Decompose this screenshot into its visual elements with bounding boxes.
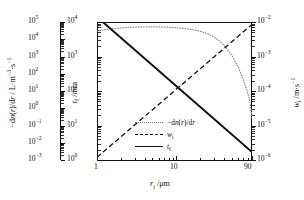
inner-left-tick-label: 101 (67, 121, 77, 129)
legend-item-tf: tf (135, 141, 207, 153)
ral-w: w (292, 102, 301, 107)
outer-left-minor-tick (61, 132, 64, 133)
outer-left-tick-label: 101 (28, 86, 38, 94)
outer-left-minor-tick (61, 69, 64, 70)
right-minor-tick (252, 136, 255, 137)
right-minor-tick (252, 99, 255, 100)
outer-left-minor-tick (61, 57, 64, 58)
ral-sup: −1 (290, 77, 296, 83)
outer-left-minor-tick (61, 144, 64, 145)
outer-left-minor-tick (61, 43, 64, 44)
outer-left-minor-tick (61, 46, 64, 47)
x-tick-label-1: 1 (94, 163, 98, 171)
outer-left-minor-tick (61, 79, 64, 80)
right-minor-tick (252, 24, 255, 25)
outer-left-minor-tick (61, 86, 64, 87)
outer-left-minor-tick (61, 131, 64, 132)
series-dn-dr-dotted (97, 27, 252, 119)
outer-left-axis-label: −dn(r)/dr / L·m−3·s−1 (8, 37, 17, 149)
right-minor-tick (252, 101, 255, 102)
outer-left-minor-tick (61, 113, 64, 114)
outer-left-tick-label: 104 (28, 34, 38, 42)
outer-left-minor-tick (61, 25, 64, 26)
olal-sup1: −3 (6, 70, 12, 76)
outer-left-minor-tick (61, 44, 64, 45)
right-major-tick (252, 160, 256, 161)
right-minor-tick (252, 58, 255, 59)
x-axis-label: ri /μm (150, 179, 170, 188)
right-minor-tick (252, 70, 255, 71)
outer-left-minor-tick (61, 112, 64, 113)
outer-left-minor-tick (61, 138, 64, 139)
right-minor-tick (252, 36, 255, 37)
x-tick-label-10: 10 (170, 163, 178, 171)
ral-units: /m·s (292, 84, 301, 101)
outer-left-minor-tick (61, 75, 64, 76)
legend: −dn(r)/dr wi tf (135, 117, 207, 153)
outer-left-minor-tick (61, 83, 64, 84)
right-tick-label: 10−2 (257, 17, 271, 25)
outer-left-minor-tick (61, 147, 64, 148)
outer-left-minor-tick (61, 135, 64, 136)
outer-left-minor-tick (61, 59, 64, 60)
right-tick-label: 10−3 (257, 52, 271, 60)
right-minor-tick (252, 115, 255, 116)
right-minor-tick (252, 60, 255, 61)
outer-left-minor-tick (61, 94, 64, 95)
right-minor-tick (252, 127, 255, 128)
outer-left-minor-tick (61, 51, 64, 52)
right-minor-tick (252, 94, 255, 95)
right-minor-tick (252, 105, 255, 106)
olal-p0: −d (8, 119, 17, 128)
figure-root: −dn(r)/dr / L·m−3·s−1 105104103102101100… (0, 0, 304, 200)
olal-n: n (8, 115, 17, 119)
outer-left-minor-tick (61, 127, 64, 128)
right-minor-tick (252, 144, 255, 145)
right-minor-tick (252, 30, 255, 31)
outer-left-minor-tick (61, 29, 64, 30)
right-minor-tick (252, 32, 255, 33)
outer-left-tick-label: 100 (28, 103, 38, 111)
outer-left-minor-tick (61, 48, 64, 49)
right-minor-tick (252, 40, 255, 41)
x-axis-spine (97, 160, 252, 161)
outer-left-minor-tick (61, 148, 64, 149)
lg0-p: −d (167, 118, 175, 127)
x-tick-label-90: 90 (244, 163, 252, 171)
right-minor-tick (252, 96, 255, 97)
inner-left-tick-label: 100 (67, 155, 77, 163)
legend-label-tf: tf (167, 143, 171, 150)
outer-left-minor-tick (61, 60, 64, 61)
outer-left-minor-tick (61, 98, 64, 99)
right-tick-label: 10−5 (257, 121, 271, 129)
right-minor-tick (252, 133, 255, 134)
outer-left-minor-tick (61, 41, 64, 42)
outer-left-minor-tick (61, 103, 64, 104)
outer-left-minor-tick (61, 31, 64, 32)
outer-left-tick-label: 102 (28, 69, 38, 77)
outer-left-minor-tick (61, 75, 64, 76)
outer-left-minor-tick (61, 26, 64, 27)
outer-left-minor-tick (61, 78, 64, 79)
olal-dot: ·s (8, 64, 17, 70)
right-minor-tick (252, 129, 255, 130)
right-minor-tick (252, 67, 255, 68)
lg0-r2: r (192, 118, 195, 127)
right-minor-tick (252, 139, 255, 140)
legend-item-wi: wi (135, 129, 207, 141)
outer-left-minor-tick (61, 126, 64, 127)
inner-left-tick-label: 102 (67, 86, 77, 94)
inner-left-tick-label: 103 (67, 52, 77, 60)
right-axis-label: wi /m·s−1 (292, 51, 301, 135)
right-minor-tick (252, 46, 255, 47)
outer-left-minor-tick (61, 145, 64, 146)
ral-sub: i (296, 100, 302, 102)
outer-left-minor-tick (61, 76, 64, 77)
outer-left-minor-tick (61, 117, 64, 118)
right-minor-tick (252, 150, 255, 151)
outer-left-minor-tick (61, 42, 64, 43)
outer-left-major-tick (61, 160, 65, 161)
lg0-c: )/d (184, 118, 192, 127)
olal-close: )/d (8, 100, 17, 109)
outer-left-minor-tick (61, 23, 64, 24)
